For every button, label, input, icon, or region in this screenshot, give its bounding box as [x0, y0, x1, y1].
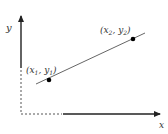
point-1	[47, 78, 52, 83]
line-segment	[36, 33, 145, 84]
point-2-label: (x2, y2)	[100, 25, 131, 36]
x-axis-label: x	[159, 120, 164, 130]
y-axis-label: y	[5, 22, 12, 33]
coordinate-diagram: y x (x1, y1) (x2, y2)	[0, 0, 168, 134]
point-1-label: (x1, y1)	[26, 65, 57, 76]
point-2	[131, 37, 136, 42]
